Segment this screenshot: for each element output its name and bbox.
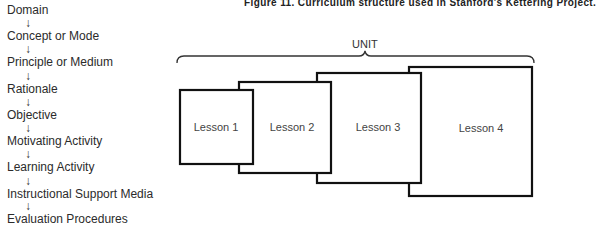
lesson-2-label: Lesson 2 — [270, 121, 315, 133]
lesson-4-label: Lesson 4 — [459, 122, 504, 134]
lesson-1-label: Lesson 1 — [194, 121, 239, 133]
lesson-3-label: Lesson 3 — [356, 121, 401, 133]
unit-brace — [177, 51, 534, 63]
